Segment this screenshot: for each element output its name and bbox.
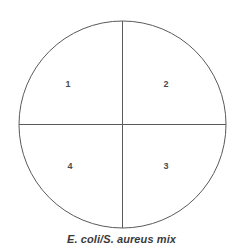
diagram-caption: E. coli/S. aureus mix (0, 233, 243, 246)
quadrant-label-4: 4 (62, 162, 78, 171)
quadrant-label-1: 1 (60, 80, 76, 89)
petri-dish-diagram: 1 2 3 4 E. coli/S. aureus mix (0, 0, 243, 251)
petri-dish-graphic (0, 0, 243, 251)
quadrant-label-3: 3 (158, 162, 174, 171)
quadrant-label-2: 2 (158, 80, 174, 89)
